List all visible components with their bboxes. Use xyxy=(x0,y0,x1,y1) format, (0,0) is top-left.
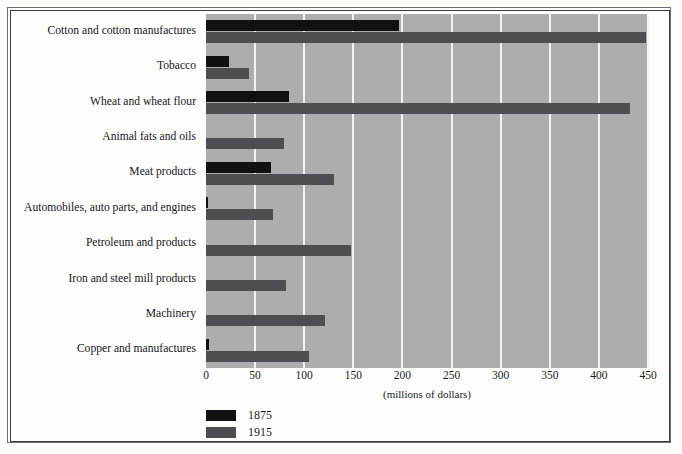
category-label-0: Cotton and cotton manufactures xyxy=(0,24,196,37)
x-axis-ticks: 050100150200250300350400450 xyxy=(206,369,648,387)
legend-label-1915: 1915 xyxy=(248,425,272,440)
x-tick-label-0: 0 xyxy=(203,369,209,381)
chart-legend: 18751915 xyxy=(206,407,272,441)
bar-1915-4 xyxy=(206,174,334,185)
x-tick-label-400: 400 xyxy=(590,369,607,381)
legend-item-1915: 1915 xyxy=(206,424,272,441)
category-label-7: Iron and steel mill products xyxy=(0,272,196,285)
x-tick-label-50: 50 xyxy=(249,369,261,381)
category-label-1: Tobacco xyxy=(0,59,196,72)
gridline-350 xyxy=(549,14,551,368)
category-label-6: Petroleum and products xyxy=(0,236,196,249)
category-label-3: Animal fats and oils xyxy=(0,130,196,143)
gridline-450 xyxy=(647,14,649,368)
bar-1875-9 xyxy=(206,339,209,350)
bar-1875-2 xyxy=(206,91,289,102)
gridline-150 xyxy=(352,14,354,368)
category-label-5: Automobiles, auto parts, and engines xyxy=(0,201,196,214)
legend-label-1875: 1875 xyxy=(248,408,272,423)
x-tick-label-300: 300 xyxy=(492,369,509,381)
bar-1875-0 xyxy=(206,20,399,31)
bar-1915-7 xyxy=(206,280,286,291)
legend-swatch-1875 xyxy=(206,410,236,421)
bar-1915-0 xyxy=(206,32,646,43)
x-tick-label-150: 150 xyxy=(345,369,362,381)
plot-area xyxy=(206,14,648,368)
x-tick-label-200: 200 xyxy=(394,369,411,381)
bar-1915-5 xyxy=(206,209,273,220)
bar-1915-2 xyxy=(206,103,630,114)
x-tick-label-350: 350 xyxy=(541,369,558,381)
legend-swatch-1915 xyxy=(206,427,236,438)
bar-1875-5 xyxy=(206,197,208,208)
gridline-200 xyxy=(401,14,403,368)
bar-1915-6 xyxy=(206,245,351,256)
bar-1915-8 xyxy=(206,315,325,326)
x-tick-label-450: 450 xyxy=(639,369,656,381)
bar-1875-1 xyxy=(206,56,229,67)
bar-1915-3 xyxy=(206,138,284,149)
x-axis-title: (millions of dollars) xyxy=(206,388,648,400)
category-label-4: Meat products xyxy=(0,165,196,178)
gridline-250 xyxy=(451,14,453,368)
bar-1875-4 xyxy=(206,162,271,173)
legend-item-1875: 1875 xyxy=(206,407,272,424)
category-label-8: Machinery xyxy=(0,307,196,320)
bar-1915-9 xyxy=(206,351,309,362)
gridline-300 xyxy=(500,14,502,368)
x-tick-label-250: 250 xyxy=(443,369,460,381)
gridline-400 xyxy=(598,14,600,368)
x-tick-label-100: 100 xyxy=(296,369,313,381)
chart-page: Cotton and cotton manufacturesTobaccoWhe… xyxy=(0,0,682,454)
category-label-2: Wheat and wheat flour xyxy=(0,95,196,108)
category-axis-labels: Cotton and cotton manufacturesTobaccoWhe… xyxy=(0,14,200,368)
category-label-9: Copper and manufactures xyxy=(0,342,196,355)
bar-1915-1 xyxy=(206,68,249,79)
